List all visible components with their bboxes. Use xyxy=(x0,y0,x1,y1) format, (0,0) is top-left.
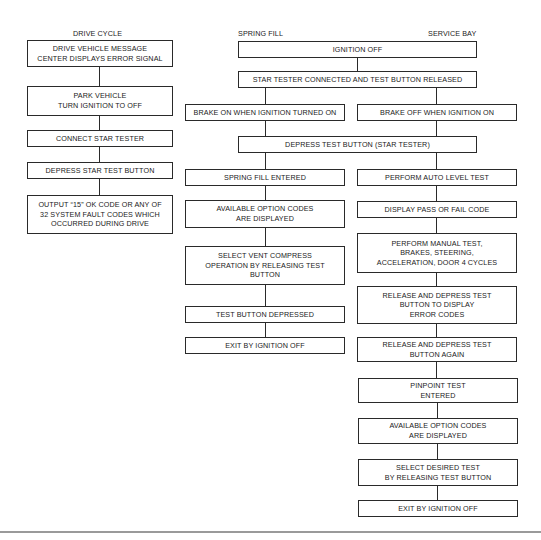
connector-line xyxy=(265,228,266,246)
service-step-option-codes: AVAILABLE OPTION CODES ARE DISPLAYED xyxy=(358,418,518,444)
spring-step-entered: SPRING FILL ENTERED xyxy=(185,169,345,186)
connector-line xyxy=(436,218,437,233)
service-step-pass-fail: DISPLAY PASS OR FAIL CODE xyxy=(357,201,517,218)
connector-line xyxy=(99,178,100,195)
connector-line xyxy=(265,153,266,169)
connector-line xyxy=(436,273,437,286)
connector-line xyxy=(436,186,437,201)
connector-line xyxy=(99,147,100,162)
service-step-manual-test: PERFORM MANUAL TEST, BRAKES, STEERING, A… xyxy=(357,233,517,273)
connector-line xyxy=(357,58,358,71)
step-brake-off: BRAKE OFF WHEN IGNITION ON xyxy=(357,104,517,121)
connector-line xyxy=(99,67,100,86)
drive-step-connect-tester: CONNECT STAR TESTER xyxy=(27,130,173,147)
spring-step-exit: EXIT BY IGNITION OFF xyxy=(185,337,345,354)
spring-fill-heading: SPRING FILL xyxy=(238,29,283,38)
service-bay-heading: SERVICE BAY xyxy=(428,29,476,38)
connector-line xyxy=(437,486,438,500)
connector-line xyxy=(437,444,438,459)
connector-line xyxy=(436,121,437,136)
spring-step-option-codes: AVAILABLE OPTION CODES ARE DISPLAYED xyxy=(185,200,345,228)
connector-line xyxy=(265,186,266,200)
connector-line xyxy=(436,362,437,378)
spring-step-select-vent: SELECT VENT COMPRESS OPERATION BY RELEAS… xyxy=(185,246,345,285)
bottom-divider xyxy=(0,531,541,533)
connector-line xyxy=(436,153,437,169)
connector-line xyxy=(437,403,438,418)
drive-step-message-center: DRIVE VEHICLE MESSAGE CENTER DISPLAYS ER… xyxy=(27,40,173,67)
step-brake-on: BRAKE ON WHEN IGNITION TURNED ON xyxy=(185,104,345,121)
connector-line xyxy=(436,88,437,104)
drive-cycle-heading: DRIVE CYCLE xyxy=(73,29,122,38)
step-depress-test-button: DEPRESS TEST BUTTON (STAR TESTER) xyxy=(238,136,477,153)
service-step-select-test: SELECT DESIRED TEST BY RELEASING TEST BU… xyxy=(358,459,518,486)
spring-step-button-depressed: TEST BUTTON DEPRESSED xyxy=(185,306,345,323)
service-step-exit: EXIT BY IGNITION OFF xyxy=(358,500,518,517)
drive-step-output-codes: OUTPUT “15” OK CODE OR ANY OF 32 SYSTEM … xyxy=(27,195,173,234)
connector-line xyxy=(99,116,100,130)
service-step-display-errors: RELEASE AND DEPRESS TEST BUTTON TO DISPL… xyxy=(357,286,517,324)
service-step-depress-again: RELEASE AND DEPRESS TEST BUTTON AGAIN xyxy=(357,337,517,362)
connector-line xyxy=(265,322,266,337)
connector-line xyxy=(265,88,266,104)
service-step-auto-level: PERFORM AUTO LEVEL TEST xyxy=(357,169,517,186)
connector-line xyxy=(436,324,437,337)
drive-step-park-vehicle: PARK VEHICLE TURN IGNITION TO OFF xyxy=(27,86,173,116)
drive-step-depress-button: DEPRESS STAR TEST BUTTON xyxy=(27,162,173,179)
connector-line xyxy=(265,121,266,136)
step-ignition-off: IGNITION OFF xyxy=(238,41,477,58)
connector-line xyxy=(265,285,266,306)
service-step-pinpoint: PINPOINT TEST ENTERED xyxy=(358,378,518,403)
step-star-tester-connected: STAR TESTER CONNECTED AND TEST BUTTON RE… xyxy=(238,71,477,88)
